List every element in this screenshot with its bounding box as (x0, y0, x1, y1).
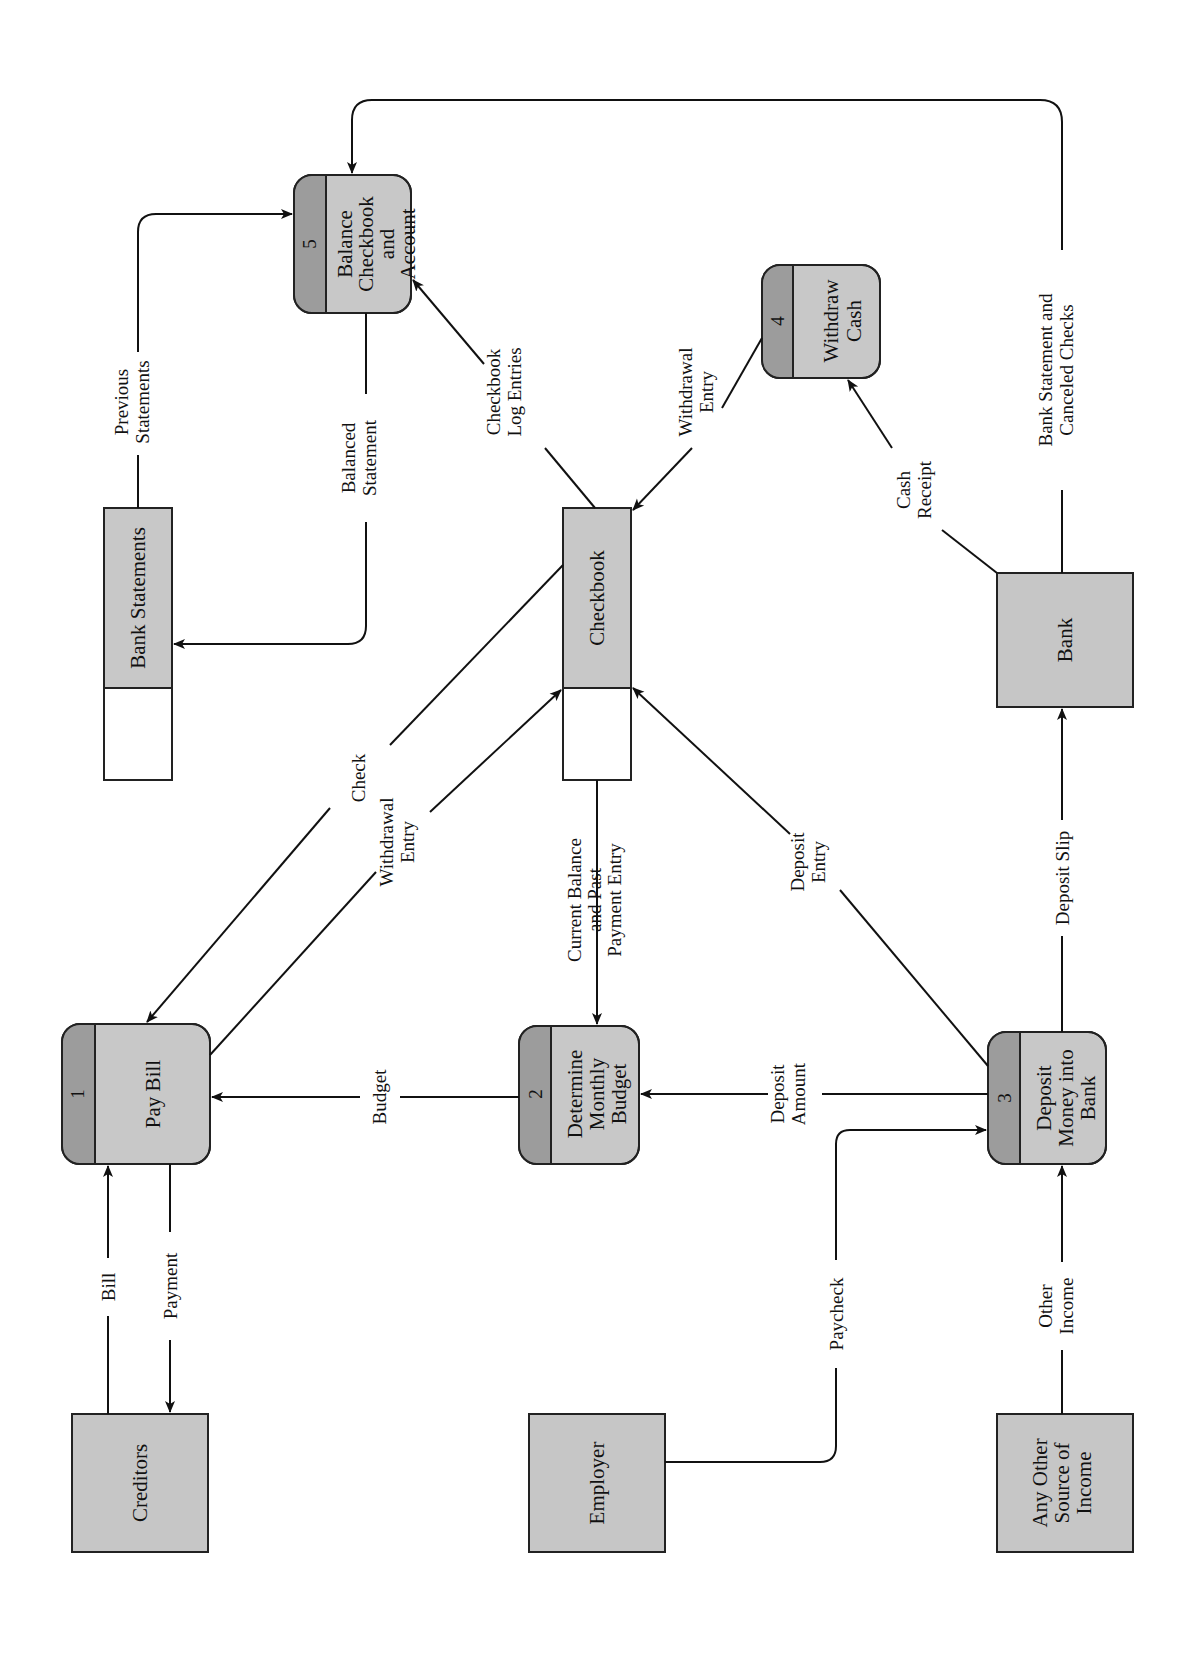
flow-deposit-entry-label-2: Entry (808, 840, 829, 883)
flow-current-balance-label-3: Payment Entry (604, 843, 625, 957)
flow-deposit-slip-label: Deposit Slip (1052, 831, 1073, 925)
flow-checkbook-log: Checkbook Log Entries (413, 280, 595, 508)
flow-bill-label: Bill (98, 1273, 119, 1302)
flow-withdrawal-entry-2-label-2: Entry (696, 370, 717, 413)
flow-balanced-statement-label-1: Balanced (338, 422, 359, 493)
store-bank-statements[interactable]: Bank Statements (104, 508, 172, 780)
process-3-label-3: Bank (1076, 1075, 1100, 1120)
process-4-label-2: Cash (842, 300, 866, 343)
process-2-determine-budget[interactable]: 2 Determine Monthly Budget (519, 1026, 639, 1164)
process-3-label-2: Money into (1054, 1049, 1078, 1146)
flow-withdrawal-entry-1-label-2: Entry (397, 820, 418, 863)
flow-deposit-amount: Deposit Amount (641, 1062, 988, 1125)
flow-paycheck: Paycheck (665, 1130, 986, 1462)
entity-other-income-label-3: Income (1072, 1452, 1096, 1515)
flow-other-income-label-2: Income (1056, 1278, 1077, 1335)
flow-payment: Payment (160, 1164, 181, 1412)
flow-cash-receipt-label-2: Receipt (914, 460, 935, 519)
entity-creditors[interactable]: Creditors (72, 1414, 208, 1552)
process-1-id: 1 (67, 1089, 88, 1099)
flow-cash-receipt-label-1: Cash (893, 471, 914, 510)
process-4-id: 4 (767, 316, 788, 326)
flow-withdrawal-entry-1-label-1: Withdrawal (376, 798, 397, 887)
flow-balanced-statement: Balanced Statement (174, 313, 380, 644)
store-checkbook[interactable]: Checkbook (563, 508, 631, 780)
flow-check: Check (147, 565, 563, 1022)
entity-creditors-label: Creditors (128, 1444, 152, 1522)
flow-check-label: Check (348, 753, 369, 802)
process-5-balance-checkbook[interactable]: 5 Balance Checkbook and Account (294, 175, 420, 313)
process-5-label-4: Account (396, 208, 420, 279)
entity-bank-label: Bank (1053, 617, 1077, 662)
flow-current-balance-label-2: and Past (584, 867, 605, 932)
flow-cash-receipt: Cash Receipt (848, 380, 997, 573)
process-4-label-1: Withdraw (819, 279, 843, 363)
process-3-deposit-money[interactable]: 3 Deposit Money into Bank (988, 1032, 1106, 1164)
flow-current-balance-label-1: Current Balance (564, 838, 585, 962)
flow-deposit-amount-label-2: Amount (788, 1062, 809, 1125)
flow-deposit-entry: Deposit Entry (633, 688, 988, 1066)
flow-other-income-label-1: Other (1035, 1284, 1056, 1328)
flow-deposit-amount-label-1: Deposit (767, 1064, 788, 1124)
process-1-label: Pay Bill (141, 1060, 165, 1128)
entity-employer-label: Employer (585, 1442, 609, 1525)
entity-other-income[interactable]: Any Other Source of Income (997, 1414, 1133, 1552)
process-1-pay-bill[interactable]: 1 Pay Bill (62, 1024, 210, 1164)
process-4-withdraw-cash[interactable]: 4 Withdraw Cash (762, 265, 880, 378)
flow-withdrawal-entry-2-label-1: Withdrawal (675, 348, 696, 437)
flow-previous-statements-label-1: Previous (111, 369, 132, 436)
flow-budget: Budget (212, 1069, 519, 1125)
flow-other-income: Other Income (1035, 1166, 1077, 1414)
entity-bank[interactable]: Bank (997, 573, 1133, 707)
flow-withdrawal-entry-cash: Withdrawal Entry (633, 338, 762, 510)
flow-budget-label: Budget (369, 1069, 390, 1125)
flow-paycheck-label: Paycheck (826, 1277, 847, 1350)
flow-deposit-slip: Deposit Slip (1052, 709, 1073, 1032)
flow-checkbook-log-label-1: Checkbook (483, 348, 504, 435)
flow-previous-statements: Previous Statements (111, 214, 292, 508)
process-2-label-2: Monthly (585, 1057, 609, 1130)
process-2-label-1: Determine (563, 1050, 587, 1139)
flow-deposit-entry-label-1: Deposit (787, 832, 808, 892)
flow-bank-statement-label-1: Bank Statement and (1035, 293, 1056, 447)
store-checkbook-label: Checkbook (585, 550, 609, 646)
flow-balanced-statement-label-2: Statement (359, 419, 380, 496)
flow-previous-statements-label-2: Statements (132, 360, 153, 443)
flow-bank-statement-label-2: Canceled Checks (1056, 304, 1077, 435)
flow-current-balance: Current Balance and Past Payment Entry (564, 780, 625, 1024)
store-bank-statements-label: Bank Statements (126, 527, 150, 669)
process-2-label-3: Budget (607, 1064, 631, 1125)
entity-other-income-label-1: Any Other (1028, 1438, 1052, 1527)
data-flow-diagram: 5 Balance Checkbook and Account 4 Withdr… (0, 0, 1203, 1672)
process-2-id: 2 (525, 1089, 546, 1099)
flow-checkbook-log-label-2: Log Entries (504, 347, 525, 436)
process-5-id: 5 (299, 239, 320, 249)
process-3-label-1: Deposit (1032, 1065, 1056, 1130)
flow-payment-label: Payment (160, 1252, 181, 1319)
entity-other-income-label-2: Source of (1050, 1442, 1074, 1523)
flow-withdrawal-entry-paybill: Withdrawal Entry (210, 690, 561, 1055)
process-3-id: 3 (994, 1093, 1015, 1103)
entity-employer[interactable]: Employer (529, 1414, 665, 1552)
flow-bill: Bill (98, 1166, 119, 1414)
